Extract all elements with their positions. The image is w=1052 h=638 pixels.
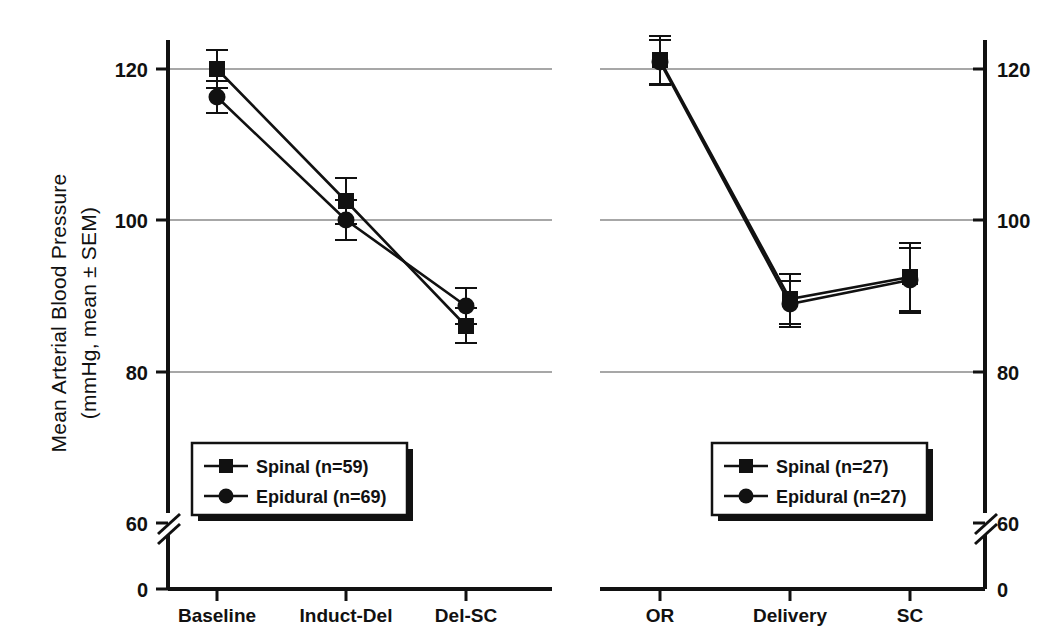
left-ytick-label-100: 100: [115, 210, 148, 232]
marker-epidural-sc: [902, 272, 919, 289]
right-xtick-label-3: SC: [897, 605, 924, 626]
left-series-spinal-points: [206, 50, 477, 343]
right-series-spinal-line: [660, 60, 910, 299]
left-xtick-label-3: Del-SC: [435, 605, 498, 626]
marker-epidural-induct-del: [338, 212, 355, 229]
right-xtick-label-1: OR: [646, 605, 675, 626]
right-ytick-label-100: 100: [997, 210, 1030, 232]
right-legend-spinal-label: Spinal (n=27): [776, 457, 889, 477]
marker-epidural-del-sc: [458, 298, 475, 315]
left-ytick-label-120: 120: [115, 59, 148, 81]
plot-canvas: 120 100 80 60 0 Baseline Induct-Del Del-…: [0, 0, 1052, 638]
left-legend-spinal-marker: [219, 459, 233, 473]
left-panel: 120 100 80 60 0 Baseline Induct-Del Del-…: [115, 40, 552, 626]
left-xtick-label-1: Baseline: [178, 605, 256, 626]
right-series-epidural-points: [649, 40, 921, 327]
right-xtick-label-2: Delivery: [753, 605, 827, 626]
right-ytick-label-120: 120: [997, 59, 1030, 81]
left-ytick-label-80: 80: [126, 362, 148, 384]
right-legend-epidural-marker: [739, 489, 754, 504]
right-legend-epidural-label: Epidural (n=27): [776, 487, 907, 507]
left-legend-epidural-label: Epidural (n=69): [256, 487, 387, 507]
right-series-epidural-line: [660, 62, 910, 304]
marker-epidural-or: [652, 54, 669, 71]
marker-spinal-baseline: [209, 61, 225, 77]
left-xtick-label-2: Induct-Del: [300, 605, 393, 626]
right-ytick-label-0: 0: [997, 579, 1008, 601]
right-ytick-label-60: 60: [997, 513, 1019, 535]
right-legend[interactable]: Spinal (n=27) Epidural (n=27): [712, 443, 933, 521]
right-panel: 120 100 80 60 0 OR Delivery SC: [600, 36, 1030, 626]
left-ytick-label-60: 60: [126, 513, 148, 535]
left-legend-spinal-label: Spinal (n=59): [256, 457, 369, 477]
left-legend[interactable]: Spinal (n=59) Epidural (n=69): [192, 443, 413, 521]
marker-epidural-delivery: [782, 296, 799, 313]
right-legend-spinal-marker: [739, 459, 753, 473]
marker-epidural-baseline: [209, 89, 226, 106]
right-ytick-label-80: 80: [997, 362, 1019, 384]
left-ytick-label-0: 0: [137, 579, 148, 601]
left-legend-epidural-marker: [219, 489, 234, 504]
chart-figure: Mean Arterial Blood Pressure (mmHg, mean…: [0, 0, 1052, 638]
left-panel-gridlines: [168, 69, 552, 372]
